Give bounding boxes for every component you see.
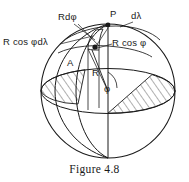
label-point-a: A [67, 58, 74, 68]
label-angle-phi: φ [104, 84, 110, 94]
label-r-cos-phi: R cos φ [112, 38, 146, 48]
label-d-lambda: dλ [131, 11, 141, 21]
label-r-cos-phi-d-lambda: R cos φdλ [3, 37, 48, 47]
label-r-d-phi: Rdφ [58, 12, 77, 22]
equatorial-plane-hatched-right [108, 75, 175, 114]
figure-caption: Figure 4.8 [0, 163, 189, 175]
equatorial-plane-hatched-left [41, 70, 85, 104]
figure-container: Rdφ dλ P R cos φ R cos φdλ A R φ Figure … [0, 0, 189, 182]
label-point-p: P [110, 9, 117, 19]
label-radius-r: R [92, 68, 99, 78]
sphere-diagram [0, 0, 189, 182]
point-p-dot [106, 23, 111, 28]
point-a-dot [92, 44, 97, 49]
